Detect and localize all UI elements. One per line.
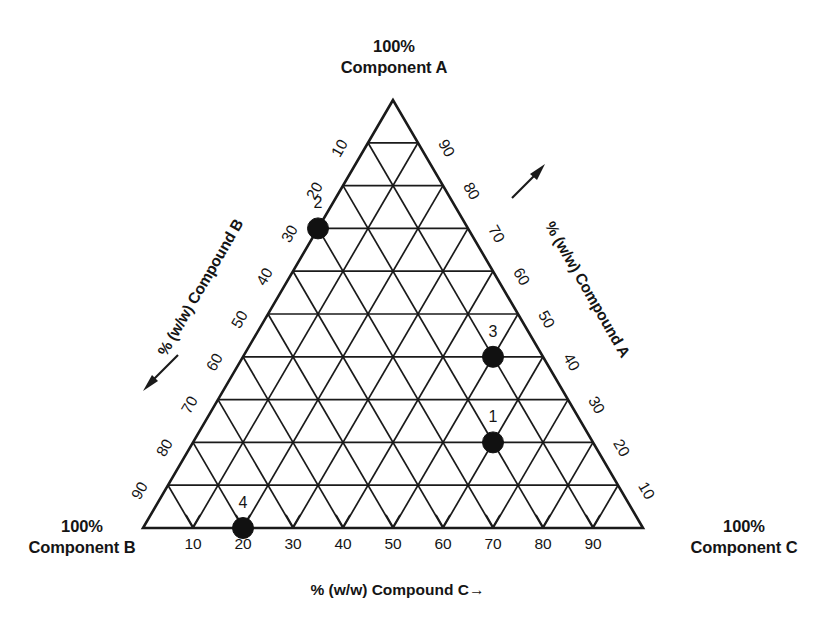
data-point-label: 3 bbox=[489, 323, 498, 340]
tick-label-b-50: 50 bbox=[228, 307, 252, 331]
axis-label-compound-b: % (w/w) Compound B bbox=[154, 216, 246, 359]
data-point-marker[interactable] bbox=[483, 346, 504, 367]
tick-label-b-70: 70 bbox=[178, 393, 202, 417]
tick-label-c-60: 60 bbox=[434, 535, 452, 552]
tick-label-a-80: 80 bbox=[460, 179, 484, 203]
tick-label-c-40: 40 bbox=[334, 535, 352, 552]
tick-label-b-60: 60 bbox=[203, 350, 227, 374]
vertex-b-name: Component B bbox=[2, 537, 162, 558]
vertex-a-value: 100% bbox=[306, 36, 482, 57]
tick-label-c-30: 30 bbox=[284, 535, 302, 552]
tick-label-a-90: 90 bbox=[435, 136, 459, 160]
vertex-label-component-b: 100% Component B bbox=[2, 516, 162, 558]
data-point-marker[interactable] bbox=[483, 432, 504, 453]
axis-tick-labels: 1020304050607080901020304050607080901020… bbox=[128, 136, 659, 552]
vertex-c-value: 100% bbox=[664, 516, 824, 537]
vertex-label-component-a: 100% Component A bbox=[306, 36, 482, 78]
tick-label-c-80: 80 bbox=[534, 535, 552, 552]
data-point-marker[interactable] bbox=[233, 518, 254, 539]
vertex-label-component-c: 100% Component C bbox=[664, 516, 824, 558]
vertex-a-name: Component A bbox=[306, 57, 482, 78]
tick-label-a-10: 10 bbox=[635, 479, 659, 503]
tick-label-b-30: 30 bbox=[278, 222, 302, 246]
axis-label-compound-a: % (w/w) Compound A bbox=[542, 218, 634, 360]
tick-label-c-90: 90 bbox=[584, 535, 602, 552]
vertex-b-value: 100% bbox=[2, 516, 162, 537]
tick-label-a-60: 60 bbox=[510, 265, 534, 289]
axis-c-text: % (w/w) Compound C bbox=[311, 581, 469, 598]
data-point-label: 2 bbox=[314, 194, 323, 211]
tick-label-b-80: 80 bbox=[153, 436, 177, 460]
ternary-diagram-figure: 100% Component A 100% Component B 100% C… bbox=[0, 0, 824, 640]
arrow-right-icon: → bbox=[469, 581, 484, 598]
axis-label-compound-c: % (w/w) Compound C→ bbox=[232, 581, 562, 599]
grid-lines bbox=[168, 143, 618, 528]
arrow-up-right-icon bbox=[512, 164, 545, 198]
tick-label-b-40: 40 bbox=[253, 264, 277, 288]
tick-label-a-70: 70 bbox=[485, 222, 509, 246]
tick-label-a-40: 40 bbox=[560, 350, 584, 374]
tick-label-a-30: 30 bbox=[585, 393, 609, 417]
tick-label-b-10: 10 bbox=[328, 136, 352, 160]
tick-label-a-50: 50 bbox=[535, 308, 559, 332]
tick-label-c-70: 70 bbox=[484, 535, 502, 552]
tick-label-b-90: 90 bbox=[128, 478, 152, 502]
vertex-c-name: Component C bbox=[664, 537, 824, 558]
tick-label-a-20: 20 bbox=[610, 436, 634, 460]
tick-label-c-10: 10 bbox=[184, 535, 202, 552]
tick-label-c-50: 50 bbox=[384, 535, 402, 552]
data-point-marker[interactable] bbox=[308, 218, 329, 239]
arrow-down-left-icon bbox=[143, 355, 178, 391]
data-point-label: 4 bbox=[239, 494, 248, 511]
data-point-label: 1 bbox=[489, 408, 498, 425]
